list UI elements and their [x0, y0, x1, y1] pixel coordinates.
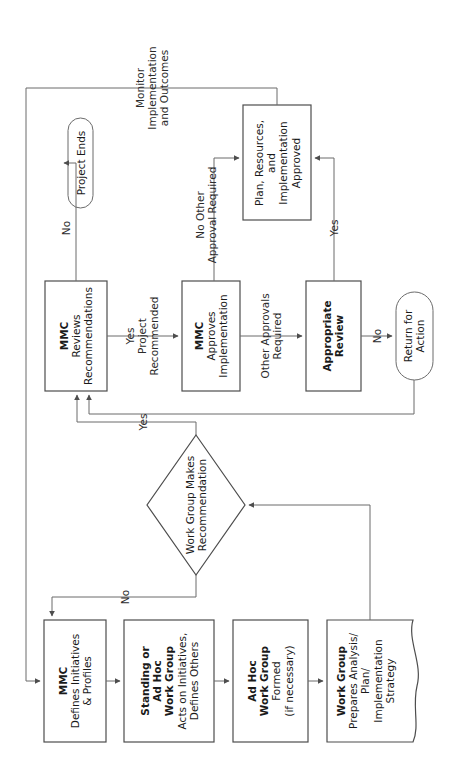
- node-appropriate-review: [306, 281, 361, 391]
- node-ad-hoc-work-group-formed: [233, 620, 308, 742]
- edge-mmc-approves-to-plan-approved: [214, 158, 239, 281]
- flowchart-svg: [0, 0, 456, 762]
- edge-appropriate-review-yes-to-plan-approved: [315, 158, 334, 281]
- node-mmc-approves: [182, 281, 240, 391]
- node-mmc-reviews: [45, 281, 107, 391]
- edge-diamond-yes-to-mmc-reviews: [77, 395, 196, 435]
- node-standing-ad-hoc-work-group: [124, 620, 214, 742]
- node-return-for-action: [396, 292, 433, 380]
- node-mmc-defines: [44, 620, 106, 742]
- edge-prepares-to-diamond: [249, 505, 370, 620]
- edge-return-to-mmc-reviews: [89, 380, 414, 414]
- flowchart-canvas: MMC Defines Initiatives & Profiles Stand…: [0, 0, 456, 762]
- node-work-group-makes-recommendation: [147, 435, 245, 575]
- edge-diamond-no-to-mmc-defines: [52, 575, 196, 616]
- node-work-group-prepares: [327, 620, 418, 742]
- node-plan-resources-approved: [243, 105, 311, 220]
